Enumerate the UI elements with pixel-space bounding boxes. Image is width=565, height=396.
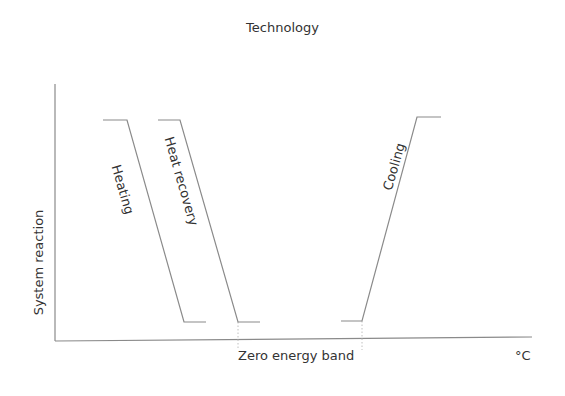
y-axis-label: System reaction [31, 208, 46, 318]
x-axis-unit: °C [515, 348, 531, 363]
zero-energy-band-label: Zero energy band [238, 348, 354, 363]
x-axis [55, 337, 532, 341]
diagram-canvas [0, 0, 565, 396]
